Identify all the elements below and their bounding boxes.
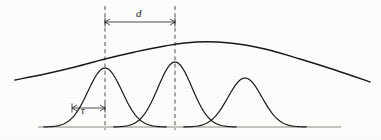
dimension-arrows xyxy=(72,18,175,113)
gaussian-pulse-1 xyxy=(44,68,166,127)
gaussian-pulse-3 xyxy=(184,78,306,127)
width-label-tau: τ xyxy=(81,106,85,116)
spacing-label-d: d xyxy=(136,8,142,19)
envelope-curve xyxy=(15,42,370,82)
dashed-reference-lines xyxy=(105,6,175,130)
pulse-train-figure: d τ xyxy=(0,0,381,140)
figure-canvas xyxy=(0,0,381,140)
